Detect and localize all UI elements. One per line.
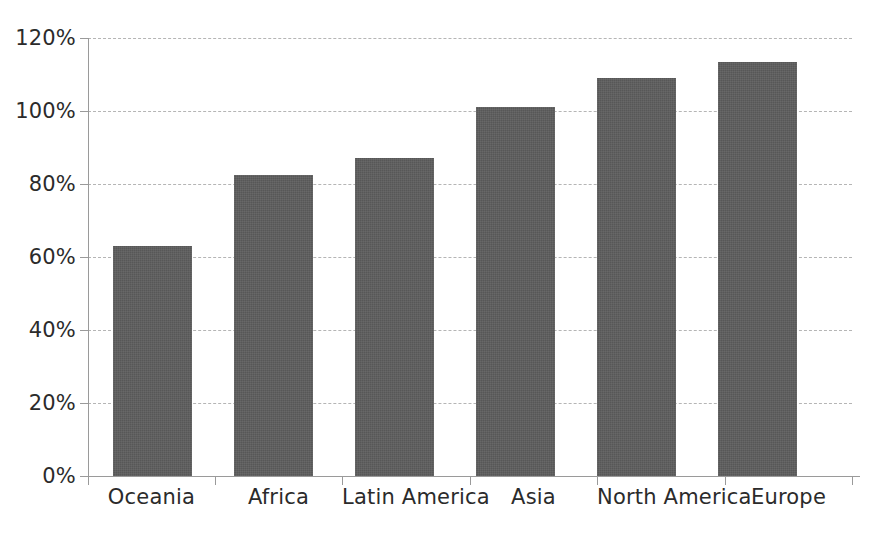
x-tick-5 bbox=[725, 476, 726, 485]
x-tick-6 bbox=[852, 476, 853, 485]
y-tick-60 bbox=[80, 257, 89, 258]
y-tick-80 bbox=[80, 184, 89, 185]
x-axis-label-europe: Europe bbox=[725, 487, 852, 508]
x-tick-1 bbox=[215, 476, 216, 485]
y-axis-label-120: 120% bbox=[2, 28, 76, 49]
y-axis-label-100: 100% bbox=[2, 101, 76, 122]
y-axis-label-60: 60% bbox=[2, 247, 76, 268]
x-axis-label-oceania: Oceania bbox=[88, 487, 215, 508]
y-axis-label-20: 20% bbox=[2, 393, 76, 414]
y-axis-label-0: 0% bbox=[2, 466, 76, 487]
bar-chart: 120% 100% 80% 60% 40% 20% 0% Oceania Afr… bbox=[0, 0, 871, 536]
x-axis-label-north-america: North America bbox=[597, 487, 725, 508]
x-axis-label-latin-america: Latin America bbox=[342, 487, 470, 508]
x-axis-label-africa: Africa bbox=[215, 487, 342, 508]
x-tick-4 bbox=[597, 476, 598, 485]
y-tick-100 bbox=[80, 111, 89, 112]
bar-europe bbox=[718, 62, 797, 476]
x-axis-label-asia: Asia bbox=[470, 487, 597, 508]
bar-oceania bbox=[113, 246, 192, 476]
bar-africa bbox=[234, 175, 313, 476]
y-tick-120 bbox=[80, 38, 89, 39]
x-tick-2 bbox=[342, 476, 343, 485]
x-tick-0 bbox=[88, 476, 89, 485]
plot-area bbox=[88, 38, 852, 476]
y-tick-40 bbox=[80, 330, 89, 331]
x-tick-3 bbox=[470, 476, 471, 485]
gridline-120 bbox=[88, 38, 852, 39]
y-tick-20 bbox=[80, 403, 89, 404]
y-axis-label-80: 80% bbox=[2, 174, 76, 195]
bar-north-america bbox=[597, 78, 676, 476]
y-axis-label-40: 40% bbox=[2, 320, 76, 341]
bar-asia bbox=[476, 107, 555, 476]
bar-latin-america bbox=[355, 158, 434, 476]
